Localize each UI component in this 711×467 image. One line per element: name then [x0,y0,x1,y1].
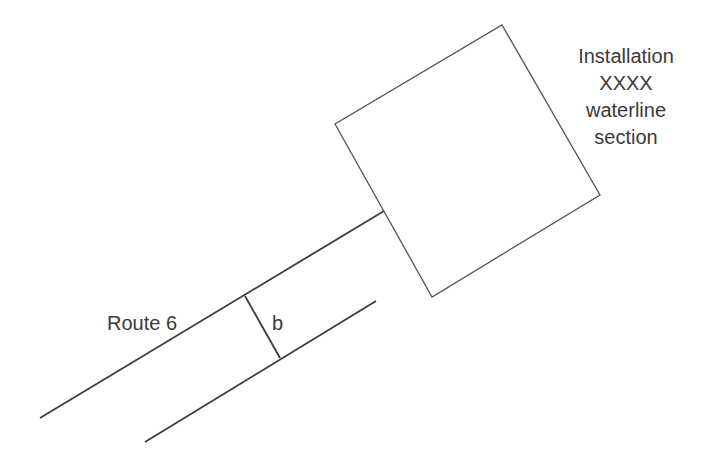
installation-box [335,25,600,297]
installation-label: Installation XXXX waterline section [578,45,674,148]
waterline-road-diagram: Route 6 b Installation XXXX waterline se… [0,0,711,467]
width-label: b [272,312,283,334]
installation-label-line-1: Installation [578,45,674,67]
installation-label-line-3: waterline [585,99,666,121]
route-label: Route 6 [107,312,177,334]
installation-label-line-4: section [594,126,657,148]
road-upper-edge [40,211,384,418]
installation-label-line-2: XXXX [599,72,652,94]
